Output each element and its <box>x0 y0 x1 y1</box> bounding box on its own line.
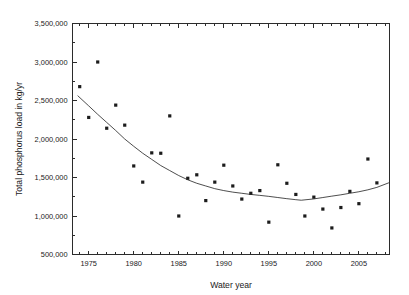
x-tick-label: 1995 <box>261 259 277 268</box>
y-tick-label: 2,000,000 <box>35 135 68 144</box>
plot-frame <box>73 24 390 255</box>
scatter-plot-canvas: 500,0001,000,0001,500,0002,000,0002,500,… <box>0 0 409 295</box>
data-point-marker <box>105 127 108 130</box>
data-point-marker <box>141 181 144 184</box>
x-tick-label: 1990 <box>216 259 232 268</box>
x-axis-title: Water year <box>210 280 252 290</box>
data-point-marker <box>186 177 189 180</box>
y-tick-label: 1,000,000 <box>35 212 68 221</box>
data-point-marker <box>285 182 288 185</box>
data-point-marker <box>78 85 81 88</box>
data-point-marker <box>123 124 126 127</box>
y-tick-label: 3,500,000 <box>35 19 68 28</box>
data-point-marker <box>303 214 306 217</box>
data-point-marker <box>204 199 207 202</box>
chart-figure: 500,0001,000,0001,500,0002,000,0002,500,… <box>0 0 409 295</box>
data-point-marker <box>87 116 90 119</box>
data-point-marker <box>348 190 351 193</box>
data-point-marker <box>222 164 225 167</box>
x-tick-label: 1985 <box>171 259 187 268</box>
data-point-marker <box>339 206 342 209</box>
x-tick-label: 2005 <box>351 259 367 268</box>
data-point-marker <box>96 60 99 63</box>
data-point-marker <box>312 196 315 199</box>
data-point-marker <box>375 181 378 184</box>
x-tick-label: 1975 <box>80 259 96 268</box>
data-point-marker <box>294 193 297 196</box>
data-point-marker <box>249 192 252 195</box>
data-point-marker <box>195 173 198 176</box>
data-point-marker <box>213 181 216 184</box>
data-point-marker <box>231 184 234 187</box>
data-point-marker <box>276 163 279 166</box>
x-tick-label: 1980 <box>126 259 142 268</box>
data-point-marker <box>258 189 261 192</box>
y-tick-label: 3,000,000 <box>35 58 68 67</box>
y-tick-label: 500,000 <box>41 250 68 259</box>
data-point-marker <box>267 221 270 224</box>
x-axis-ticks: 1975198019851990199520002005 <box>80 24 386 268</box>
y-tick-label: 1,500,000 <box>35 173 68 182</box>
data-point-marker <box>114 104 117 107</box>
data-point-marker <box>177 214 180 217</box>
y-axis-title: Total phosphorus load in kg/yr <box>14 82 24 196</box>
y-tick-label: 2,500,000 <box>35 96 68 105</box>
data-point-marker <box>150 151 153 154</box>
data-point-marker <box>132 164 135 167</box>
data-point-marker <box>330 226 333 229</box>
data-point-marker <box>357 202 360 205</box>
data-point-marker <box>240 197 243 200</box>
x-tick-label: 2000 <box>306 259 322 268</box>
y-axis-ticks: 500,0001,000,0001,500,0002,000,0002,500,… <box>35 19 77 259</box>
data-point-marker <box>321 207 324 210</box>
data-point-marker <box>168 114 171 117</box>
data-point-group <box>78 60 378 229</box>
data-point-marker <box>159 152 162 155</box>
data-point-marker <box>366 157 369 160</box>
